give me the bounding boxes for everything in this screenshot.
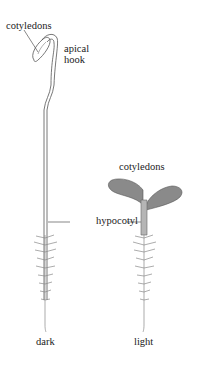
label-hook: hook [64, 54, 85, 65]
label-hypocotyl: hypocotyl [96, 215, 138, 226]
light-seedling [108, 179, 182, 332]
right-cotyledon [146, 186, 182, 210]
light-hypocotyl [141, 200, 147, 235]
left-cotyledon [108, 179, 143, 205]
apical-hook-inner [44, 39, 54, 300]
label-cotyledons-dark: cotyledons [6, 20, 52, 31]
dark-roots [34, 235, 57, 332]
label-cotyledons-light: cotyledons [119, 161, 165, 172]
seedling-drawing [0, 0, 199, 372]
dark-seedling [24, 30, 70, 332]
light-roots [133, 235, 156, 332]
label-apical: apical [64, 43, 89, 54]
seedling-diagram: cotyledons apical hook cotyledons hypoco… [0, 0, 199, 372]
label-light: light [134, 336, 153, 347]
label-dark: dark [36, 336, 55, 347]
leader-cotyledons-dark [24, 30, 38, 52]
